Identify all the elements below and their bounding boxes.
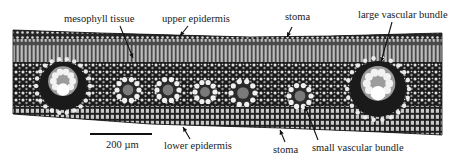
label-small-vascular-bundle: small vascular bundle: [312, 142, 404, 154]
scale-bar-label: 200 µm: [106, 139, 139, 151]
label-lower-epidermis: lower epidermis: [164, 140, 232, 152]
label-upper-epidermis: upper epidermis: [162, 13, 230, 25]
label-stoma-bottom: stoma: [273, 144, 298, 156]
scale-bar: [90, 133, 152, 135]
label-mesophyll-tissue: mesophyll tissue: [64, 13, 134, 25]
label-stoma-top: stoma: [285, 11, 310, 23]
label-large-vascular-bundle: large vascular bundle: [358, 9, 448, 21]
